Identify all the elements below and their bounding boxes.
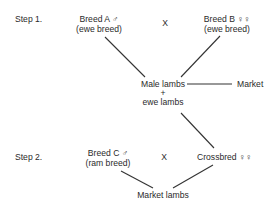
line-breed-c-to-market-lambs <box>121 171 153 188</box>
cross-symbol-step2: X <box>161 152 167 162</box>
offspring-ewe-lambs: ewe lambs <box>141 97 185 107</box>
offspring-node: Male lambs + ewe lambs <box>141 79 185 107</box>
breed-c-type: (ram breed) <box>86 158 131 168</box>
step-1-label: Step 1. <box>15 14 42 24</box>
line-breed-a-to-lambs <box>105 37 145 77</box>
step-2-label: Step 2. <box>15 152 42 162</box>
market-node: Market <box>237 79 263 89</box>
line-crossbred-to-market-lambs <box>173 165 213 188</box>
line-ewe-lambs-to-crossbred <box>181 113 214 148</box>
cross-symbol-step1: X <box>162 18 168 28</box>
breed-a-name: Breed A ♂ <box>76 14 122 24</box>
breed-b-node: Breed B ♀♀ (ewe breed) <box>204 14 250 34</box>
breed-a-node: Breed A ♂ (ewe breed) <box>76 14 122 34</box>
market-lambs-node: Market lambs <box>137 190 189 200</box>
offspring-plus: + <box>141 89 185 97</box>
breed-c-name: Breed C ♂ <box>86 148 131 158</box>
breed-c-node: Breed C ♂ (ram breed) <box>86 148 131 168</box>
line-breed-b-to-lambs <box>181 36 220 77</box>
breed-b-type: (ewe breed) <box>204 24 250 34</box>
crossbred-node: Crossbred ♀♀ <box>197 152 252 162</box>
breed-b-name: Breed B ♀♀ <box>204 14 250 24</box>
breed-a-type: (ewe breed) <box>76 24 122 34</box>
